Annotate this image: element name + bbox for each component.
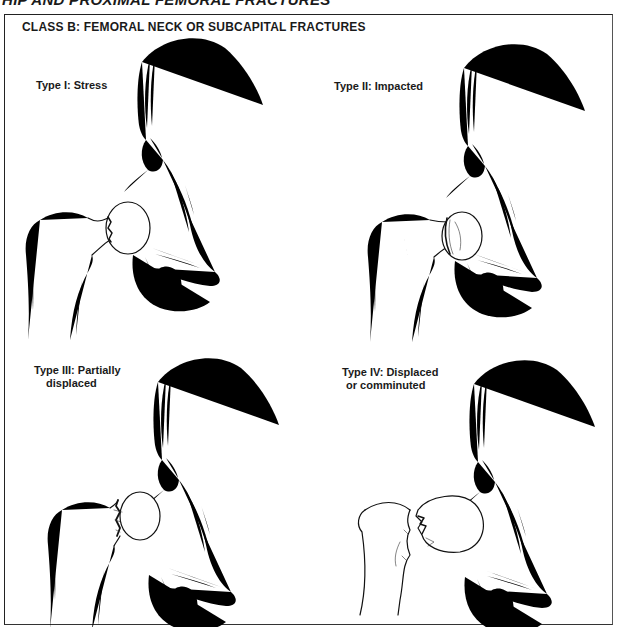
figure-type-3-partially-displaced [0,310,310,627]
figure-type-2-impacted [310,10,620,310]
figure-type-1-stress [0,10,310,310]
figure-type-4-displaced-comminuted [310,310,620,627]
chapter-title: HIP AND PROXIMAL FEMORAL FRACTURES [2,0,331,8]
